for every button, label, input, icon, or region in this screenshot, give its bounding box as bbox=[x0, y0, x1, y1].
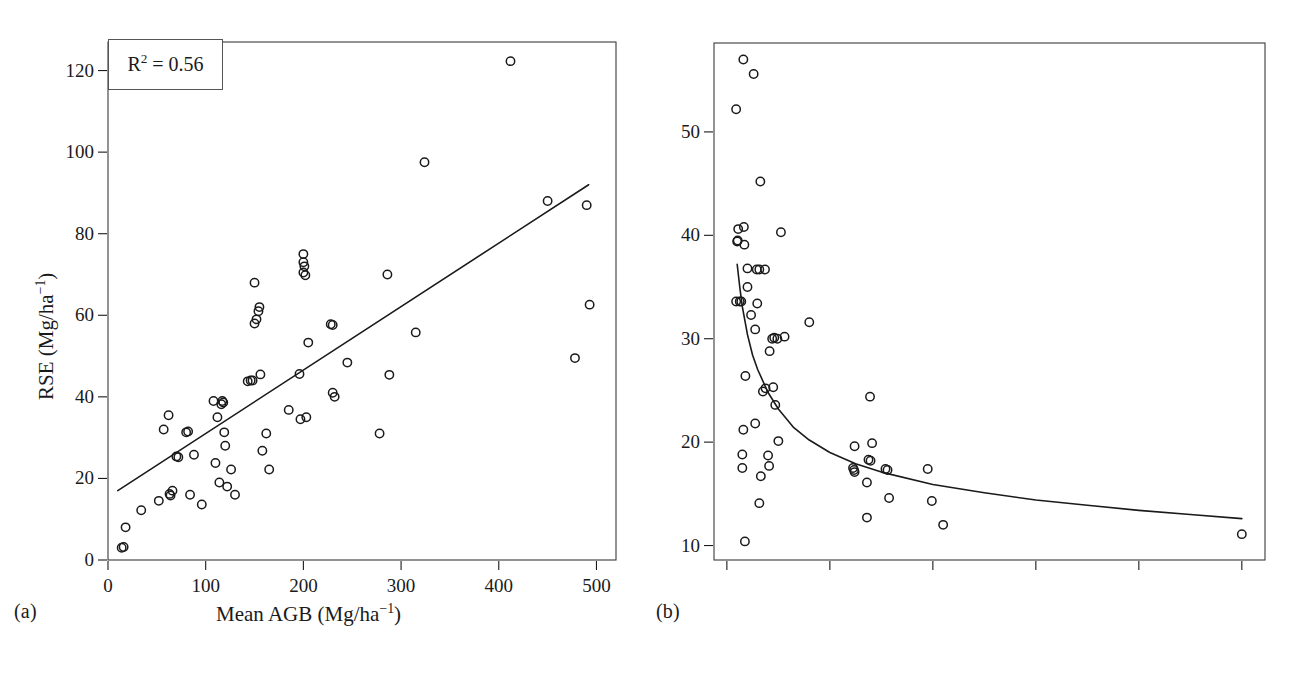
data-point bbox=[774, 437, 782, 445]
data-point bbox=[738, 450, 746, 458]
data-point bbox=[198, 500, 206, 508]
y-tick-label: 40 bbox=[56, 386, 94, 408]
data-point bbox=[734, 225, 742, 233]
panel-a-r2-annotation: R2 = 0.56 bbox=[108, 39, 223, 90]
data-point bbox=[1238, 530, 1246, 538]
data-point bbox=[186, 491, 194, 499]
data-point bbox=[250, 278, 258, 286]
data-point bbox=[256, 370, 264, 378]
data-point bbox=[420, 158, 428, 166]
data-point bbox=[343, 358, 351, 366]
data-point bbox=[137, 506, 145, 514]
data-point bbox=[863, 478, 871, 486]
data-points bbox=[117, 57, 593, 552]
data-point bbox=[805, 318, 813, 326]
data-point bbox=[751, 325, 759, 333]
data-point bbox=[743, 264, 751, 272]
data-point bbox=[753, 299, 761, 307]
data-point bbox=[571, 354, 579, 362]
data-point bbox=[764, 451, 772, 459]
y-tick-label: 10 bbox=[662, 535, 700, 557]
data-point bbox=[928, 497, 936, 505]
y-tick-label: 20 bbox=[662, 431, 700, 453]
data-point bbox=[741, 537, 749, 545]
data-point bbox=[749, 70, 757, 78]
x-tick-label: 500 bbox=[582, 575, 611, 597]
y-tick-label: 40 bbox=[662, 224, 700, 246]
data-point bbox=[220, 428, 228, 436]
data-point bbox=[299, 250, 307, 258]
data-point bbox=[741, 372, 749, 380]
panel-b-letter: (b) bbox=[656, 600, 680, 623]
data-point bbox=[375, 429, 383, 437]
data-point bbox=[738, 464, 746, 472]
data-point bbox=[543, 197, 551, 205]
plot-frame bbox=[108, 42, 616, 560]
x-tick-label: 400 bbox=[485, 575, 514, 597]
data-point bbox=[740, 223, 748, 231]
data-point bbox=[262, 429, 270, 437]
data-point bbox=[221, 442, 229, 450]
y-tick-label: 80 bbox=[56, 223, 94, 245]
data-point bbox=[765, 347, 773, 355]
data-point bbox=[213, 413, 221, 421]
y-tick-label: 100 bbox=[56, 141, 94, 163]
data-point bbox=[285, 406, 293, 414]
data-point bbox=[739, 426, 747, 434]
panel-b-plot bbox=[652, 0, 1305, 682]
x-tick-label: 300 bbox=[387, 575, 416, 597]
data-point bbox=[223, 482, 231, 490]
x-tick-label: 0 bbox=[103, 575, 113, 597]
data-point bbox=[924, 465, 932, 473]
data-point bbox=[751, 419, 759, 427]
data-point bbox=[227, 465, 235, 473]
data-point bbox=[190, 451, 198, 459]
data-point bbox=[121, 523, 129, 531]
data-point bbox=[761, 265, 769, 273]
data-point bbox=[777, 228, 785, 236]
data-point bbox=[885, 494, 893, 502]
plot-frame bbox=[714, 43, 1265, 560]
panel-b: (b) Plot size (ha) RSE (%) R2 = 0.40 0.0… bbox=[652, 0, 1304, 682]
data-point bbox=[304, 338, 312, 346]
data-point bbox=[506, 57, 514, 65]
data-point bbox=[211, 459, 219, 467]
data-point bbox=[732, 105, 740, 113]
data-point bbox=[739, 55, 747, 63]
y-tick-label: 120 bbox=[56, 60, 94, 82]
fit-curve bbox=[737, 264, 1242, 518]
y-tick-label: 20 bbox=[56, 467, 94, 489]
data-point bbox=[265, 465, 273, 473]
data-point bbox=[863, 513, 871, 521]
data-point bbox=[756, 177, 764, 185]
panel-a: (a) Mean AGB (Mg/ha−1) RSE (Mg/ha−1) R2 … bbox=[0, 0, 652, 682]
data-point bbox=[164, 411, 172, 419]
data-points bbox=[732, 55, 1246, 545]
data-point bbox=[412, 328, 420, 336]
data-point bbox=[258, 446, 266, 454]
data-point bbox=[385, 371, 393, 379]
data-point bbox=[866, 392, 874, 400]
x-tick-label: 200 bbox=[289, 575, 318, 597]
panel-a-y-axis-title: RSE (Mg/ha−1) bbox=[34, 273, 59, 400]
data-point bbox=[757, 472, 765, 480]
data-point bbox=[231, 491, 239, 499]
data-point bbox=[939, 521, 947, 529]
data-point bbox=[582, 201, 590, 209]
panel-a-letter: (a) bbox=[14, 600, 37, 623]
data-point bbox=[159, 425, 167, 433]
panel-a-x-axis-title: Mean AGB (Mg/ha−1) bbox=[216, 602, 401, 627]
data-point bbox=[585, 300, 593, 308]
data-point bbox=[765, 462, 773, 470]
data-point bbox=[743, 283, 751, 291]
x-tick-label: 100 bbox=[191, 575, 220, 597]
data-point bbox=[215, 478, 223, 486]
data-point bbox=[383, 270, 391, 278]
data-point bbox=[868, 439, 876, 447]
panel-a-plot bbox=[0, 0, 652, 682]
data-point bbox=[850, 442, 858, 450]
regression-line bbox=[118, 185, 589, 491]
data-point bbox=[740, 240, 748, 248]
figure-container: (a) Mean AGB (Mg/ha−1) RSE (Mg/ha−1) R2 … bbox=[0, 0, 1305, 682]
y-tick-label: 0 bbox=[56, 549, 94, 571]
